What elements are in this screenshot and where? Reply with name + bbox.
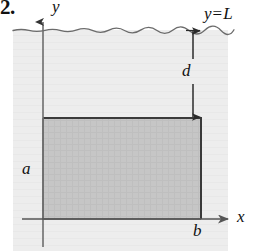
surface-level-value: L bbox=[223, 4, 232, 23]
surface-variable: y bbox=[204, 4, 212, 23]
depth-label: d bbox=[182, 62, 191, 79]
diagram-canvas bbox=[0, 0, 259, 251]
surface-level-label: y=L bbox=[204, 5, 233, 22]
submerged-plate bbox=[43, 118, 201, 219]
y-axis-label: y bbox=[52, 0, 60, 15]
equals-sign: = bbox=[212, 4, 224, 23]
x-axis-label: x bbox=[237, 208, 245, 225]
problem-number: 2. bbox=[0, 0, 15, 18]
figure-container: 2. y y=L d a b x bbox=[0, 0, 259, 251]
height-label: a bbox=[22, 160, 31, 177]
width-label: b bbox=[193, 222, 202, 239]
